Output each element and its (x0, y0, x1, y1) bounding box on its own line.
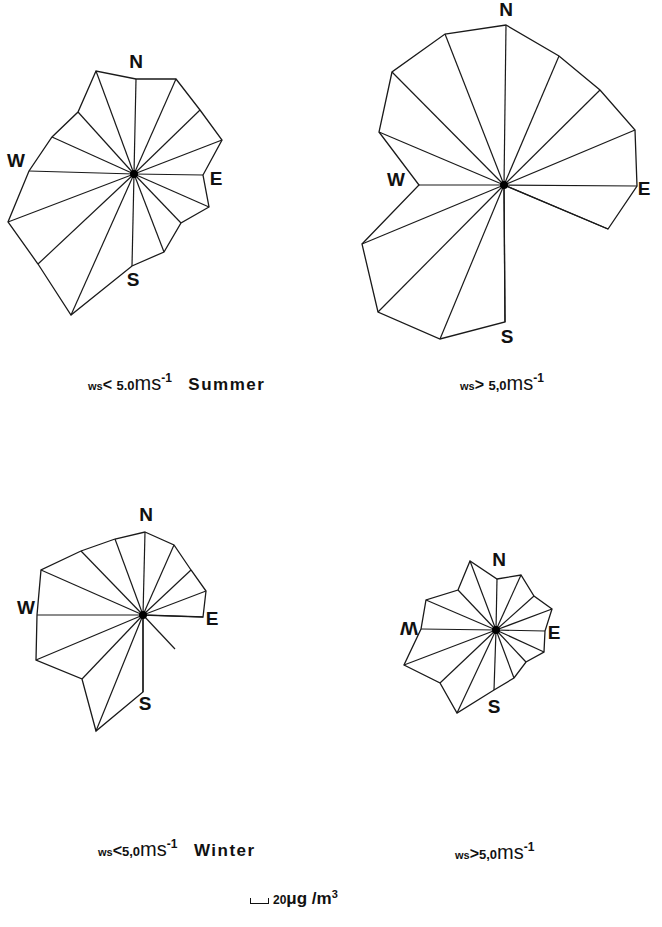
direction-label-s: S (501, 326, 514, 347)
caption-comparator: > (475, 376, 484, 393)
direction-label-e: E (210, 168, 223, 189)
caption-comparator: < (113, 842, 122, 859)
caption-season: Winter (194, 841, 256, 860)
spoke-se (143, 615, 175, 649)
caption-value: 5,0 (122, 844, 140, 859)
spoke-wnw (426, 600, 496, 630)
caption-prefix: ws (88, 380, 103, 392)
direction-label-s: S (139, 693, 152, 714)
spoke-n (134, 79, 136, 174)
caption-value: 5,0 (488, 378, 506, 393)
spoke-w (421, 629, 496, 630)
spoke-wnw (52, 137, 134, 174)
direction-label-n: N (492, 549, 506, 570)
spoke-e (504, 185, 637, 186)
wind-rose-winter-low-ws: NESW (17, 504, 218, 731)
spoke-ne (496, 596, 534, 630)
caption-winter-high: ws>5,0ms-1 (455, 841, 534, 864)
direction-label-w: W (400, 618, 418, 639)
direction-label-e: E (548, 622, 561, 643)
spoke-ne (504, 90, 600, 185)
spoke-w (29, 171, 134, 174)
spoke-s (494, 630, 496, 690)
spoke-n (143, 532, 145, 615)
caption-prefix: ws (455, 849, 470, 861)
wind-rose-figure: NESW NESW NESW NESW (0, 0, 662, 927)
caption-prefix: ws (98, 846, 113, 858)
direction-label-s: S (488, 696, 501, 717)
spoke-e (143, 615, 203, 617)
spoke-ne (134, 110, 200, 174)
spoke-e (496, 630, 545, 631)
spoke-sw (38, 174, 134, 264)
caption-unit: ms (140, 838, 167, 860)
caption-value: 5.0 (116, 378, 134, 393)
caption-summer-high: ws> 5,0ms-1 (460, 372, 544, 395)
spoke-nw (392, 72, 504, 185)
rose-center-dot (130, 170, 138, 178)
caption-season: Summer (188, 375, 265, 394)
spoke-n (496, 579, 497, 630)
rose-outline (36, 532, 206, 731)
wind-rose-summer-high-ws: NESW (362, 0, 650, 347)
caption-summer-low: ws< 5.0ms-1 Summer (88, 372, 265, 395)
spoke-nw (78, 112, 134, 174)
caption-prefix: ws (460, 380, 475, 392)
spoke-sw (82, 615, 143, 679)
direction-label-n: N (499, 0, 513, 20)
direction-label-n: N (139, 504, 153, 525)
direction-label-s: S (127, 269, 140, 290)
caption-unit: ms (507, 372, 534, 394)
direction-label-w: W (17, 597, 35, 618)
wind-rose-summer-low-ws: NESW (7, 51, 222, 315)
spoke-s (132, 174, 134, 266)
spoke-se (496, 630, 526, 662)
spoke-wnw (41, 570, 143, 615)
scale-bar-unit-exponent: 3 (332, 888, 338, 900)
caption-unit: ms (135, 372, 162, 394)
spoke-nnw (445, 34, 504, 185)
spoke-nnw (96, 71, 134, 174)
spoke-nw (81, 551, 143, 615)
direction-label-e: E (638, 178, 651, 199)
spoke-nw (458, 590, 496, 630)
caption-exponent: -1 (161, 371, 172, 385)
spoke-wsw (8, 174, 134, 222)
direction-label-w: W (387, 169, 405, 190)
spoke-nnw (115, 539, 143, 615)
direction-label-n: N (129, 51, 143, 72)
rose-center-dot (139, 611, 147, 619)
spoke-e (134, 174, 203, 175)
caption-exponent: -1 (524, 840, 535, 854)
caption-unit: ms (497, 841, 524, 863)
spoke-n (504, 25, 506, 185)
wind-rose-winter-high-ws: NESW (400, 549, 560, 717)
caption-comparator: < (103, 376, 112, 393)
scale-bar-value: 20 (273, 893, 286, 907)
spoke-sw (378, 185, 504, 312)
caption-exponent: -1 (167, 837, 178, 851)
direction-label-e: E (206, 608, 219, 629)
caption-comparator: > (470, 845, 479, 862)
scale-bar-line (250, 898, 269, 904)
spoke-nnw (470, 561, 496, 630)
scale-bar-legend: 20μg /m3 (250, 888, 338, 909)
rose-outline (8, 71, 222, 315)
spoke-ese (504, 185, 608, 229)
caption-value: 5,0 (479, 847, 497, 862)
spoke-se (134, 174, 181, 223)
caption-winter-low: ws<5,0ms-1 Winter (98, 838, 256, 861)
spoke-s (504, 185, 505, 322)
caption-exponent: -1 (533, 371, 544, 385)
rose-center-dot (492, 626, 500, 634)
direction-label-w: W (7, 150, 25, 171)
spoke-sw (440, 630, 496, 683)
rose-center-dot (500, 181, 508, 189)
scale-bar-unit: μg /m (286, 889, 331, 908)
spoke-ne (143, 570, 191, 615)
spoke-ssw (71, 174, 134, 315)
